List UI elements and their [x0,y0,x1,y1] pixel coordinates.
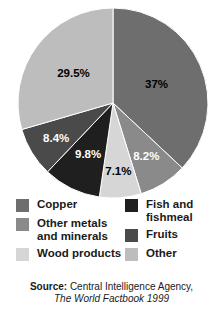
legend-item-label: Other metals and minerals [37,217,108,242]
legend-item[interactable]: Fish and fishmeal [125,198,221,223]
legend-item-label: Fish and fishmeal [146,198,193,223]
legend-swatch-icon [125,248,138,261]
pie-chart: 37%8.2%7.1%9.8%8.4%29.5% [0,0,223,200]
pie-slices-group [18,8,208,198]
legend-item-label: Wood products [37,247,121,260]
legend-item[interactable]: Other metals and minerals [16,217,126,242]
legend-swatch-icon [125,229,138,242]
legend-column-right: Fish and fishmealFruitsOther [125,198,221,266]
source-publication: The World Factbook 1999 [54,293,169,304]
legend-swatch-icon [16,248,29,261]
legend-item-label: Fruits [146,228,178,241]
legend-item[interactable]: Copper [16,198,126,212]
legend-item[interactable]: Wood products [16,247,126,261]
source-note: Source: Central Intelligence Agency, The… [0,281,223,305]
pie-chart-svg: 37%8.2%7.1%9.8%8.4%29.5% [0,0,223,200]
legend-item[interactable]: Other [125,247,221,261]
legend-swatch-icon [16,199,29,212]
legend-item-label: Other [146,247,177,260]
legend-swatch-icon [125,199,138,212]
legend-swatch-icon [16,218,29,231]
legend-item[interactable]: Fruits [125,228,221,242]
pie-chart-figure: 37%8.2%7.1%9.8%8.4%29.5% CopperOther met… [0,0,223,312]
legend-column-left: CopperOther metals and mineralsWood prod… [16,198,126,266]
source-agency: Central Intelligence Agency, [70,281,193,292]
legend-item-label: Copper [37,198,77,211]
source-label: Source: [30,281,67,292]
legend: CopperOther metals and mineralsWood prod… [0,198,223,278]
